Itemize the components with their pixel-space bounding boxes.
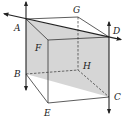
cube-plane-diagram: A G D F B H C E (0, 0, 128, 120)
label-H: H (82, 61, 91, 71)
label-B: B (13, 69, 21, 79)
label-E: E (43, 108, 51, 118)
label-G: G (73, 5, 80, 15)
label-A: A (13, 23, 21, 33)
label-F: F (34, 43, 42, 53)
edge-AG (26, 17, 78, 19)
label-D: D (112, 26, 120, 36)
label-C: C (114, 92, 121, 102)
edge-EC (48, 97, 109, 103)
